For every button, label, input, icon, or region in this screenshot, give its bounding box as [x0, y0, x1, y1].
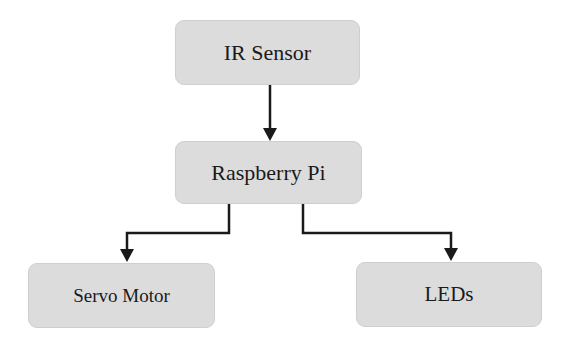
node-label: IR Sensor — [224, 40, 311, 66]
arrowhead-icon — [120, 249, 134, 262]
node-label: Raspberry Pi — [211, 160, 325, 186]
node-label: LEDs — [425, 282, 474, 307]
edge-pi-to-leds — [303, 204, 451, 249]
arrowhead-icon — [263, 128, 277, 141]
node-leds: LEDs — [356, 262, 542, 327]
node-ir-sensor: IR Sensor — [175, 20, 360, 85]
node-servo-motor: Servo Motor — [28, 263, 215, 328]
arrowhead-icon — [444, 248, 458, 261]
node-label: Servo Motor — [73, 285, 170, 307]
edge-pi-to-servo — [127, 204, 229, 250]
node-raspberry-pi: Raspberry Pi — [175, 141, 362, 204]
